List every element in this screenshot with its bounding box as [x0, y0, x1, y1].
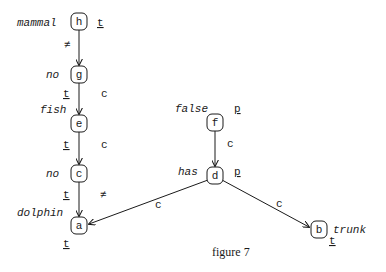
node-a: a [71, 217, 87, 234]
label-false: false [175, 103, 208, 115]
mark-h: t [97, 17, 104, 29]
label-trunk: trunk [333, 224, 366, 236]
svg-text:g: g [76, 69, 83, 81]
mark-b: t [329, 235, 336, 247]
edge-d-a [89, 180, 208, 224]
svg-text:d: d [212, 170, 219, 182]
svg-text:c: c [76, 168, 83, 180]
label-fish: fish [40, 104, 66, 116]
figure-caption: figure 7 [212, 245, 250, 259]
mark-e: t [63, 139, 70, 151]
edge-label-h-g: ≠ [64, 39, 71, 51]
node-f: f [207, 114, 223, 131]
label-dolphin: dolphin [17, 207, 63, 219]
edge-label-e-c: c [101, 139, 108, 151]
node-g: g [71, 66, 87, 83]
label-no-g: no [46, 69, 59, 81]
mark-c: t [63, 189, 70, 201]
edge-label-c-a: ≠ [100, 189, 107, 201]
figure-7-diagram: ≠ c c ≠ c c c h g e c a f d b mammal no … [0, 0, 386, 272]
edge-label-d-b: c [276, 198, 283, 210]
mark-d: p [234, 166, 241, 178]
node-e: e [71, 115, 87, 132]
svg-text:e: e [76, 118, 83, 130]
mark-f: p [234, 103, 241, 115]
edge-label-g-e: c [101, 88, 108, 100]
label-mammal: mammal [17, 17, 57, 29]
node-h: h [71, 13, 87, 30]
edge-label-f-d: c [227, 138, 234, 150]
svg-text:f: f [212, 117, 219, 129]
svg-text:b: b [316, 224, 323, 236]
svg-text:h: h [76, 16, 83, 28]
node-d: d [207, 167, 223, 184]
label-no-c: no [46, 168, 59, 180]
mark-g: t [63, 88, 70, 100]
label-has: has [178, 166, 198, 178]
edge-d-b [222, 180, 309, 227]
svg-text:a: a [76, 220, 83, 232]
mark-a: t [63, 238, 70, 250]
node-c: c [71, 165, 87, 182]
node-b: b [311, 221, 327, 238]
edge-label-d-a: c [155, 199, 162, 211]
